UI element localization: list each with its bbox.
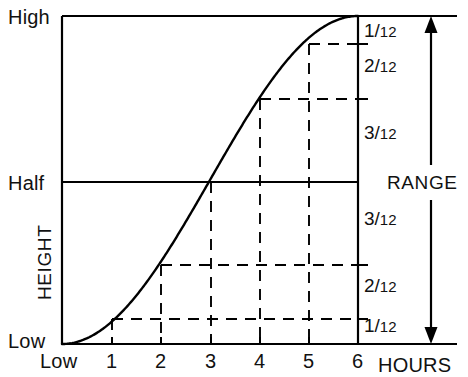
x-tick-3: 3 [205, 350, 216, 373]
fraction-numerator: 2 [364, 275, 375, 296]
fraction-numerator: 3 [364, 122, 375, 143]
fraction-label-upper-3: 3/12 [364, 122, 397, 144]
rule-of-twelfths-chart: High Half Low HEIGHT Low 1 2 3 4 5 6 HOU… [0, 0, 468, 377]
x-axis-origin-low: Low [40, 350, 77, 373]
dashed-vertical-guides [112, 44, 309, 344]
fraction-denominator: 12 [380, 58, 397, 75]
range-arrow-upper [425, 16, 438, 165]
fraction-denominator: 12 [380, 23, 397, 40]
fraction-numerator: 1 [364, 315, 375, 336]
x-tick-2: 2 [155, 350, 166, 373]
x-tick-1: 1 [106, 350, 117, 373]
fraction-label-upper-1: 1/12 [364, 20, 397, 42]
fraction-denominator: 12 [380, 278, 397, 295]
fraction-denominator: 12 [380, 318, 397, 335]
fraction-label-lower-2: 2/12 [364, 275, 397, 297]
range-arrow-lower [425, 200, 438, 344]
fraction-denominator: 12 [380, 211, 397, 228]
fraction-numerator: 3 [364, 208, 375, 229]
x-tick-4: 4 [254, 350, 265, 373]
fraction-numerator: 1 [364, 20, 375, 41]
x-tick-5: 5 [303, 350, 314, 373]
x-tick-6: 6 [352, 350, 363, 373]
fraction-numerator: 2 [364, 55, 375, 76]
fraction-label-lower-3: 1/12 [364, 315, 397, 337]
x-axis-title-hours: HOURS [378, 354, 451, 377]
y-axis-title-height: HEIGHT [34, 225, 56, 300]
fraction-label-upper-2: 2/12 [364, 55, 397, 77]
fraction-denominator: 12 [380, 125, 397, 142]
fraction-label-lower-1: 3/12 [364, 208, 397, 230]
tide-height-curve [62, 16, 358, 344]
y-axis-label-half: Half [8, 172, 44, 195]
y-axis-label-high: High [8, 6, 50, 29]
range-annotation-label: RANGE [387, 172, 458, 194]
